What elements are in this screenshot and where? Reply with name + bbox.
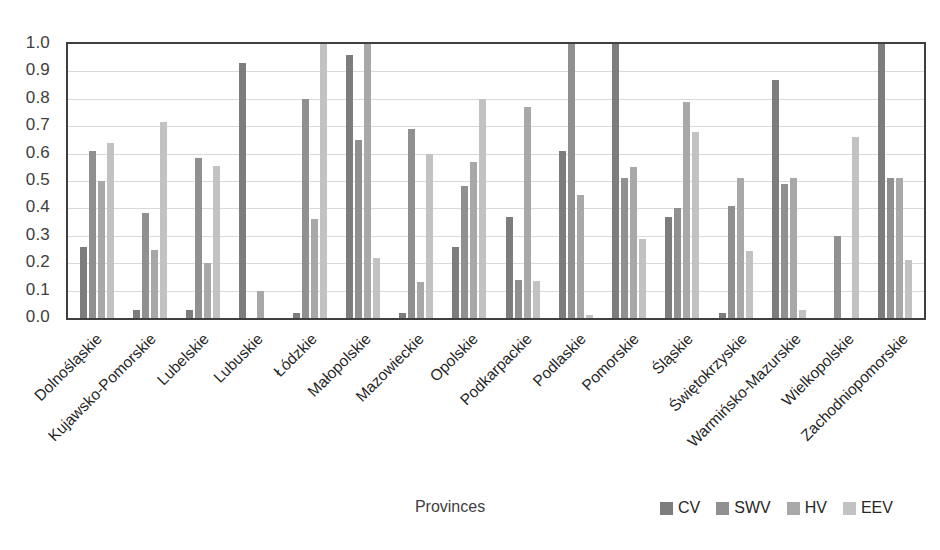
y-axis-tick-label: 0.1 <box>26 280 50 297</box>
bar-cv[interactable] <box>772 80 779 318</box>
y-axis-tick-label: 0.8 <box>26 88 50 105</box>
bar-hv[interactable] <box>257 291 264 318</box>
y-axis-tick-label: 0.6 <box>26 143 50 160</box>
legend-swatch-icon <box>716 502 729 515</box>
grouped-bar-chart: 0.00.10.20.30.40.50.60.70.80.91.0 Dolnoś… <box>0 0 940 550</box>
bar-eev[interactable] <box>107 143 114 318</box>
y-axis-tick-label: 0.4 <box>26 198 50 215</box>
bar-eev[interactable] <box>426 154 433 318</box>
bar-cv[interactable] <box>612 44 619 318</box>
legend-item[interactable]: HV <box>787 500 827 516</box>
y-axis-tick-label: 1.0 <box>26 34 50 51</box>
bar-group <box>496 44 549 318</box>
bar-eev[interactable] <box>213 166 220 318</box>
bar-hv[interactable] <box>364 44 371 318</box>
bar-eev[interactable] <box>160 122 167 318</box>
legend-item[interactable]: SWV <box>716 500 770 516</box>
bar-group <box>603 44 656 318</box>
y-axis-tick-label: 0.2 <box>26 253 50 270</box>
bar-cv[interactable] <box>878 44 885 318</box>
legend-label: EEV <box>861 500 893 516</box>
bar-eev[interactable] <box>320 44 327 318</box>
y-axis: 0.00.10.20.30.40.50.60.70.80.91.0 <box>0 34 58 328</box>
bar-eev[interactable] <box>533 281 540 318</box>
legend-label: HV <box>805 500 827 516</box>
x-axis-title: Provinces <box>340 498 560 516</box>
bar-cv[interactable] <box>239 63 246 318</box>
bar-hv[interactable] <box>311 219 318 318</box>
bar-eev[interactable] <box>639 239 646 318</box>
bar-group <box>283 44 336 318</box>
bar-group <box>709 44 762 318</box>
bar-group <box>656 44 709 318</box>
y-axis-tick-label: 0.5 <box>26 171 50 188</box>
legend-swatch-icon <box>787 502 800 515</box>
bar-swv[interactable] <box>89 151 96 318</box>
bar-group <box>336 44 389 318</box>
bar-swv[interactable] <box>568 44 575 318</box>
bar-group <box>230 44 283 318</box>
bar-cv[interactable] <box>80 247 87 318</box>
bar-eev[interactable] <box>373 258 380 318</box>
bar-swv[interactable] <box>302 99 309 318</box>
bar-hv[interactable] <box>737 178 744 318</box>
y-axis-tick-label: 0.3 <box>26 225 50 242</box>
y-axis-tick-label: 0.9 <box>26 61 50 78</box>
legend-label: SWV <box>734 500 770 516</box>
legend-swatch-icon <box>660 502 673 515</box>
legend-item[interactable]: EEV <box>843 500 893 516</box>
legend-label: CV <box>678 500 700 516</box>
bar-hv[interactable] <box>98 181 105 318</box>
legend-swatch-icon <box>843 502 856 515</box>
bar-swv[interactable] <box>728 206 735 318</box>
y-axis-tick-label: 0.0 <box>26 308 50 325</box>
legend-item[interactable]: CV <box>660 500 700 516</box>
bar-hv[interactable] <box>524 107 531 318</box>
bar-swv[interactable] <box>355 140 362 318</box>
bar-cv[interactable] <box>346 55 353 318</box>
y-axis-tick-label: 0.7 <box>26 116 50 133</box>
legend: CVSWVHVEEV <box>660 497 893 519</box>
bar-eev[interactable] <box>746 251 753 318</box>
bar-group <box>70 44 123 318</box>
